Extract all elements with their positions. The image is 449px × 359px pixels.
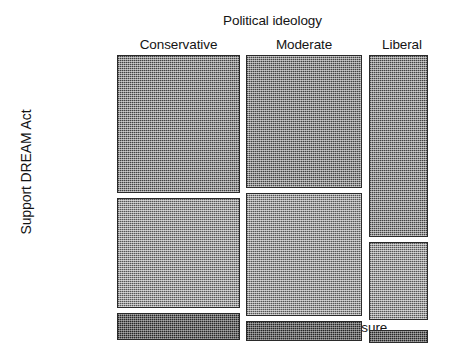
tile-conservative-yes[interactable] xyxy=(117,55,240,193)
tile-liberal-no[interactable] xyxy=(369,242,428,320)
tile-moderate-no[interactable] xyxy=(246,193,362,316)
mosaic-tiles-area xyxy=(0,0,449,359)
mosaic-plot: Political ideology Conservative Moderate… xyxy=(0,0,449,359)
tile-moderate-yes[interactable] xyxy=(246,55,362,188)
tile-conservative-no[interactable] xyxy=(117,198,240,308)
tile-liberal-yes[interactable] xyxy=(369,55,428,237)
tile-liberal-not-sure[interactable] xyxy=(369,330,428,343)
tile-conservative-not-sure[interactable] xyxy=(117,313,240,340)
tile-moderate-not-sure[interactable] xyxy=(246,321,362,341)
